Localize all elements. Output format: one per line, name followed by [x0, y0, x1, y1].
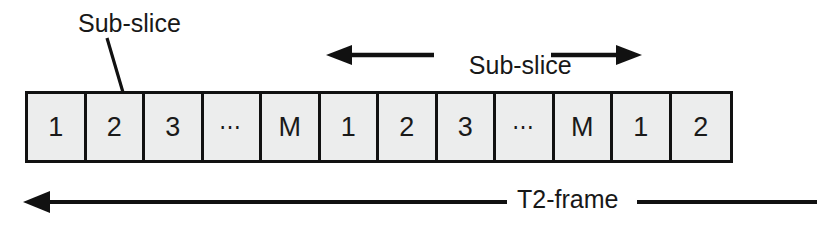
- slice-cell: 2: [379, 94, 438, 160]
- slice-cell-ellipsis: ⋯: [204, 94, 263, 160]
- sub-slice-interval-label-line1: Sub-slice: [469, 51, 572, 79]
- slice-cell: 1: [28, 94, 87, 160]
- t2-frame-left-arrow: [23, 191, 507, 213]
- slice-cell: 3: [438, 94, 497, 160]
- slice-cell: M: [262, 94, 321, 160]
- sub-slice-callout-label: Sub-slice: [78, 10, 181, 36]
- slice-cell: 3: [145, 94, 204, 160]
- interval-left-arrow: [326, 45, 434, 65]
- slice-cell-ellipsis: ⋯: [496, 94, 555, 160]
- slice-cell: 2: [87, 94, 146, 160]
- slice-cell: M: [555, 94, 614, 160]
- sub-slice-diagram: Sub-slice Sub-slice interval T2-frame 1: [0, 0, 817, 232]
- t2-frame-label: T2-frame: [517, 186, 618, 212]
- slice-cell: 1: [321, 94, 380, 160]
- slice-bar: 1 2 3 ⋯ M 1 2 3 ⋯ M 1 2: [25, 91, 733, 163]
- slice-cell: 2: [672, 94, 731, 160]
- slice-cell: 1: [613, 94, 672, 160]
